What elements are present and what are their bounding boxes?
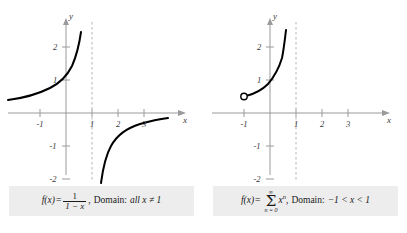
y-tick-label-neg1: -1 <box>250 142 264 151</box>
caption-separator: , <box>88 196 90 206</box>
x-tick-label-neg1: -1 <box>238 120 250 129</box>
fraction-numerator: 1 <box>71 192 80 201</box>
caption-domain-value: all x ≠ 1 <box>130 196 161 206</box>
caption-fraction: 1 1 − x <box>63 192 86 211</box>
x-tick-label-2: 2 <box>316 120 328 129</box>
plot-svg-right <box>204 0 407 185</box>
sum-lower-limit: n = 0 <box>264 207 277 213</box>
caption-function-head: f(x) <box>241 196 254 206</box>
curve-power-series <box>246 30 286 96</box>
open-circle-endpoint <box>241 93 247 99</box>
plot-area-left: x y -1 1 2 3 2 1 -1 -2 <box>0 0 203 185</box>
caption-separator: , <box>286 196 288 206</box>
x-axis-label: x <box>387 116 391 125</box>
summation-operator: ∞ Σ n = 0 <box>264 189 277 213</box>
plot-svg-left <box>0 0 203 185</box>
y-tick-label-2: 2 <box>50 43 60 52</box>
caption-domain-value: −1 < x < 1 <box>328 196 370 206</box>
caption-left: f(x) = 1 1 − x , Domain: all x ≠ 1 <box>42 192 162 211</box>
summand: xn <box>279 196 286 206</box>
panel-left: x y -1 1 2 3 2 1 -1 -2 f(x) = 1 1 − x , <box>0 0 203 233</box>
caption-right: f(x) = ∞ Σ n = 0 xn , Domain: −1 < x < 1 <box>241 189 370 213</box>
x-tick-label-1: 1 <box>86 120 98 129</box>
caption-equals: = <box>56 196 61 206</box>
caption-band-right: f(x) = ∞ Σ n = 0 xn , Domain: −1 < x < 1 <box>213 186 398 216</box>
x-axis-label: x <box>183 116 187 125</box>
x-tick-label-2: 2 <box>112 120 124 129</box>
y-tick-label-2: 2 <box>254 43 264 52</box>
y-tick-label-neg2: -2 <box>46 175 60 184</box>
plot-area-right: x y -1 1 2 3 2 1 -1 -2 <box>204 0 407 185</box>
figure-root: x y -1 1 2 3 2 1 -1 -2 f(x) = 1 1 − x , <box>0 0 407 233</box>
sigma-icon: Σ <box>266 194 277 208</box>
caption-equals: = <box>255 196 260 206</box>
y-tick-label-1: 1 <box>50 76 60 85</box>
y-tick-label-1: 1 <box>254 76 264 85</box>
curve-left-branch <box>8 32 81 100</box>
y-tick-label-neg2: -2 <box>250 175 264 184</box>
x-tick-label-3: 3 <box>342 120 354 129</box>
caption-domain-label: Domain: <box>291 196 324 206</box>
fraction-denominator: 1 − x <box>63 202 86 211</box>
y-axis-label: y <box>273 12 277 21</box>
caption-domain-label: Domain: <box>94 196 127 206</box>
caption-function-head: f(x) <box>42 196 55 206</box>
panel-right: x y -1 1 2 3 2 1 -1 -2 f(x) = ∞ Σ n = 0 … <box>204 0 407 233</box>
x-tick-label-3: 3 <box>138 120 150 129</box>
x-tick-label-neg1: -1 <box>34 120 46 129</box>
x-tick-label-1: 1 <box>290 120 302 129</box>
y-axis-label: y <box>69 12 73 21</box>
caption-band-left: f(x) = 1 1 − x , Domain: all x ≠ 1 <box>9 186 194 216</box>
y-tick-label-neg1: -1 <box>46 142 60 151</box>
